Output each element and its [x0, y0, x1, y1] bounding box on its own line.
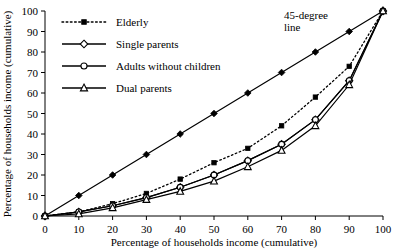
y-tick-label: 0	[33, 210, 39, 222]
y-axis-ticks: 0102030405060708090100	[22, 5, 46, 222]
y-tick-label: 90	[27, 26, 39, 38]
lorenz-curve-chart: 0102030405060708090100 01020304050607080…	[0, 0, 396, 250]
y-tick-label: 10	[27, 190, 39, 202]
series-45-degree-line	[42, 11, 383, 219]
annotation-line-2: line	[284, 21, 301, 33]
marker-filled-square	[279, 124, 283, 128]
marker-filled-diamond	[346, 28, 353, 35]
marker-filled-diamond	[278, 69, 285, 76]
y-tick-label: 50	[27, 108, 39, 120]
legend-item-label: Single parents	[116, 38, 179, 50]
marker-filled-diamond	[143, 151, 150, 158]
x-tick-label: 60	[242, 223, 254, 235]
marker-open-circle	[81, 63, 87, 69]
marker-filled-diamond	[76, 192, 83, 199]
chart-legend: ElderlySingle parentsAdults without chil…	[62, 16, 221, 94]
x-tick-label: 20	[107, 223, 119, 235]
legend-item-adults-without-children[interactable]: Adults without children	[62, 60, 221, 72]
marker-filled-square	[347, 64, 351, 68]
marker-filled-diamond	[109, 172, 116, 179]
marker-filled-diamond	[312, 49, 319, 56]
y-tick-label: 60	[27, 87, 39, 99]
annotation-45-degree-line: 45-degree line	[284, 9, 328, 33]
x-tick-label: 70	[276, 223, 288, 235]
x-tick-label: 90	[344, 223, 356, 235]
y-tick-label: 80	[27, 46, 39, 58]
legend-item-label: Dual parents	[116, 82, 172, 94]
marker-filled-square	[246, 146, 250, 150]
legend-item-single-parents[interactable]: Single parents	[62, 38, 179, 50]
x-tick-label: 100	[375, 223, 392, 235]
marker-filled-diamond	[211, 110, 218, 117]
legend-item-dual-parents[interactable]: Dual parents	[62, 82, 172, 94]
x-tick-label: 30	[141, 223, 153, 235]
marker-filled-square	[212, 161, 216, 165]
y-axis-title: Percentage of households income (cumulat…	[1, 10, 14, 217]
legend-item-label: Adults without children	[116, 60, 221, 72]
x-tick-label: 10	[73, 223, 85, 235]
y-tick-label: 30	[27, 149, 39, 161]
marker-open-diamond	[80, 40, 88, 48]
marker-filled-diamond	[245, 90, 252, 97]
x-axis-title: Percentage of households income (cumulat…	[111, 236, 318, 249]
marker-open-triangle	[244, 163, 251, 169]
marker-filled-square	[313, 95, 317, 99]
x-tick-label: 0	[42, 223, 48, 235]
y-tick-label: 70	[27, 67, 39, 79]
marker-filled-square	[82, 20, 87, 25]
marker-open-triangle	[278, 147, 285, 153]
x-tick-label: 80	[310, 223, 322, 235]
y-tick-label: 40	[27, 128, 39, 140]
y-tick-label: 100	[22, 5, 39, 17]
x-tick-label: 50	[209, 223, 221, 235]
legend-item-label: Elderly	[116, 16, 149, 28]
marker-filled-square	[178, 177, 182, 181]
chart-plot-area: 0102030405060708090100 01020304050607080…	[0, 0, 396, 250]
marker-filled-diamond	[177, 131, 184, 138]
series-layer	[41, 7, 386, 219]
x-tick-label: 40	[175, 223, 187, 235]
x-axis-ticks: 0102030405060708090100	[42, 216, 392, 235]
y-tick-label: 20	[27, 169, 39, 181]
annotation-line-1: 45-degree	[284, 9, 328, 21]
legend-item-elderly[interactable]: Elderly	[62, 16, 149, 28]
